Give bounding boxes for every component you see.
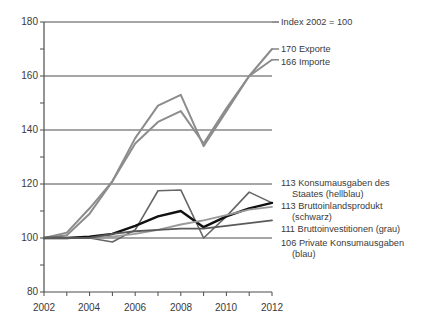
series-label-konsumausgaben-staat: 113 Konsumausgaben des Staates (hellblau… — [281, 178, 390, 200]
y-axis-label-140: 140 — [12, 124, 38, 135]
annotation-index-note: Index 2002 = 100 — [281, 17, 352, 28]
x-axis-label-2008: 2008 — [161, 302, 201, 313]
x-axis-label-2010: 2010 — [206, 302, 246, 313]
series-line-0 — [44, 49, 272, 238]
x-axis-label-2002: 2002 — [24, 302, 64, 313]
series-label-private-konsumausgaben-line2: (blau) — [281, 249, 404, 260]
chart-plot-area — [0, 0, 429, 333]
y-axis-label-120: 120 — [12, 178, 38, 189]
x-axis-label-2006: 2006 — [115, 302, 155, 313]
series-label-private-konsumausgaben: 106 Private Konsumausgaben (blau) — [281, 238, 404, 260]
y-axis-label-160: 160 — [12, 70, 38, 81]
line-chart: 180 160 140 120 100 80 2002 2004 2006 20… — [0, 0, 429, 333]
series-label-bruttoinlandsprodukt-line1: 113 Bruttoinlandsprodukt — [281, 201, 382, 212]
y-axis-label-80: 80 — [12, 286, 38, 297]
series-label-exporte: 170 Exporte — [281, 44, 331, 55]
series-line-5 — [44, 220, 272, 238]
series-label-bruttoinlandsprodukt-line2: (schwarz) — [281, 212, 382, 223]
series-label-bruttoinvestitionen: 111 Bruttoinvestitionen (grau) — [281, 224, 400, 235]
series-label-konsumausgaben-staat-line1: 113 Konsumausgaben des — [281, 178, 390, 189]
series-label-importe: 166 Importe — [281, 57, 330, 68]
x-axis-label-2012: 2012 — [252, 302, 292, 313]
y-axis-label-180: 180 — [12, 16, 38, 27]
series-label-bruttoinlandsprodukt: 113 Bruttoinlandsprodukt (schwarz) — [281, 201, 382, 223]
series-label-konsumausgaben-staat-line2: Staates (hellblau) — [281, 189, 390, 200]
x-axis-label-2004: 2004 — [69, 302, 109, 313]
series-line-4 — [44, 207, 272, 238]
y-axis-label-100: 100 — [12, 232, 38, 243]
series-label-private-konsumausgaben-line1: 106 Private Konsumausgaben — [281, 238, 404, 249]
